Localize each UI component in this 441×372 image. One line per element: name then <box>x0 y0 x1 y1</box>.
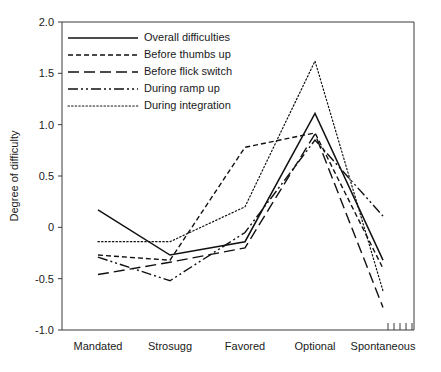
x-axis-ticks: MandatedStrosuggFavoredOptionalSpontaneo… <box>74 340 416 352</box>
line-chart: 2.01.51.00.50-0.5-1.0 MandatedStrosuggFa… <box>0 0 441 372</box>
plot-border <box>62 22 414 330</box>
legend-label-2: Before flick switch <box>144 65 232 77</box>
legend-label-1: Before thumbs up <box>144 48 231 60</box>
y-tick-label: 0.5 <box>39 170 54 182</box>
x-tick-label: Spontaneous <box>351 340 416 352</box>
y-tick-label: 1.5 <box>39 67 54 79</box>
x-axis-minor-ticks <box>388 323 412 330</box>
chart-container: 2.01.51.00.50-0.5-1.0 MandatedStrosuggFa… <box>0 0 441 372</box>
y-axis-title: Degree of difficulty <box>8 130 20 221</box>
y-tick-label: 2.0 <box>39 16 54 28</box>
chart-legend: Overall difficultiesBefore thumbs upBefo… <box>68 31 232 111</box>
series-line-2 <box>98 134 383 308</box>
y-tick-label: -1.0 <box>35 324 54 336</box>
legend-label-0: Overall difficulties <box>144 31 230 43</box>
x-tick-label: Mandated <box>74 340 123 352</box>
y-tick-label: -0.5 <box>35 273 54 285</box>
y-axis-ticks: 2.01.51.00.50-0.5-1.0 <box>35 16 62 336</box>
series-line-3 <box>98 140 383 281</box>
x-tick-label: Favored <box>225 340 265 352</box>
series-line-4 <box>98 61 383 291</box>
axis-titles: Degree of difficulty <box>8 130 20 221</box>
x-tick-label: Optional <box>295 340 336 352</box>
series-line-0 <box>98 113 383 260</box>
plot-frame <box>62 22 414 330</box>
y-tick-label: 1.0 <box>39 119 54 131</box>
legend-label-4: During integration <box>144 99 231 111</box>
x-tick-label: Strosugg <box>148 340 192 352</box>
legend-label-3: During ramp up <box>144 82 220 94</box>
series-lines <box>98 61 383 307</box>
y-tick-label: 0 <box>48 221 54 233</box>
